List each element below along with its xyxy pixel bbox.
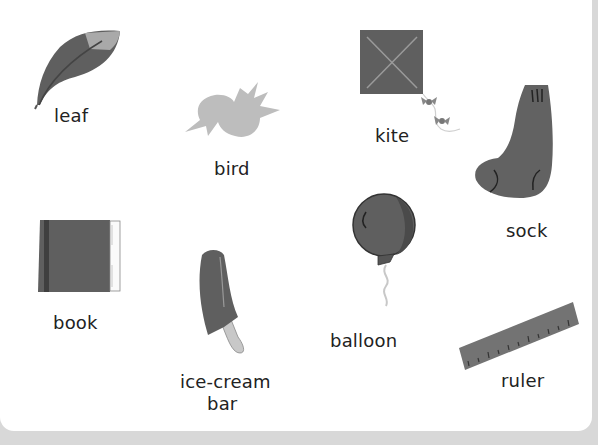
sock-item[interactable]: sock [470, 80, 598, 250]
ice-cream-bar-item[interactable]: ice-cream bar [160, 245, 290, 420]
sock-icon [470, 80, 580, 210]
balloon-item[interactable]: balloon [330, 190, 430, 360]
ruler-label: ruler [501, 370, 544, 392]
ice-cream-bar-icon [190, 245, 270, 360]
balloon-label: balloon [330, 330, 397, 352]
ruler-icon [455, 300, 585, 370]
book-label: book [53, 312, 98, 334]
leaf-item[interactable]: leaf [30, 25, 130, 135]
bird-item[interactable]: bird [180, 70, 290, 190]
worksheet-card: leaf bird kite [0, 0, 592, 431]
ruler-item[interactable]: ruler [455, 300, 585, 400]
ice-cream-bar-label-line2: bar [207, 393, 237, 415]
bow-icon [421, 97, 437, 105]
leaf-icon [30, 25, 130, 110]
book-item[interactable]: book [30, 215, 140, 345]
book-icon [30, 215, 130, 300]
ice-cream-bar-label-line1: ice-cream [180, 371, 271, 393]
kite-item[interactable]: kite [355, 25, 475, 155]
leaf-label: leaf [54, 105, 88, 127]
kite-label: kite [375, 125, 409, 147]
kite-icon [355, 25, 475, 135]
balloon-icon [350, 190, 430, 320]
bird-icon [180, 70, 290, 150]
sock-label: sock [506, 220, 548, 242]
bird-label: bird [214, 158, 250, 180]
